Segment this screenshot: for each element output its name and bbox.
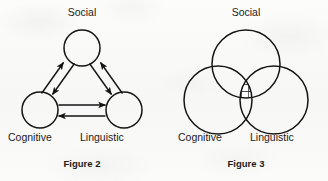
node-circle-cognitive (22, 92, 58, 128)
node-circle-social (64, 30, 100, 66)
arrow-social-to-cognitive (53, 64, 75, 95)
figure-3-label-social: Social (164, 6, 328, 18)
venn-triple-intersection-hatch (164, 0, 328, 150)
arrow-social-to-linguistic (90, 64, 112, 95)
figure-3-caption: Figure 3 (164, 158, 328, 169)
node-circle-linguistic (106, 92, 142, 128)
figure-3-label-cognitive: Cognitive (178, 131, 222, 143)
figure-3-panel: Social Cognitive Linguistic Figure 3 (164, 0, 328, 181)
figures-container: Social Cognitive Linguistic Figure 2 (0, 0, 328, 181)
arrow-cognitive-to-social (42, 63, 64, 94)
venn-circle-linguistic (240, 66, 308, 134)
figure-2-caption: Figure 2 (0, 158, 164, 169)
venn-circle-cognitive (184, 66, 252, 134)
figure-2-label-social: Social (0, 6, 164, 18)
figure-3-drawing (164, 0, 328, 150)
figure-2-panel: Social Cognitive Linguistic Figure 2 (0, 0, 164, 181)
figure-2-label-cognitive: Cognitive (8, 131, 52, 143)
figure-2-drawing (0, 0, 164, 150)
figure-2-label-linguistic: Linguistic (80, 131, 124, 143)
arrow-linguistic-to-social (101, 63, 123, 94)
figure-3-label-linguistic: Linguistic (250, 131, 294, 143)
